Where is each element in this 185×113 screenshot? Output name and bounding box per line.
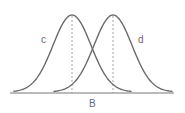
- axis-label: B: [89, 98, 96, 109]
- curve-label-d: d: [138, 34, 144, 45]
- distribution-diagram: c d B: [0, 0, 185, 113]
- curve-label-c: c: [41, 34, 46, 45]
